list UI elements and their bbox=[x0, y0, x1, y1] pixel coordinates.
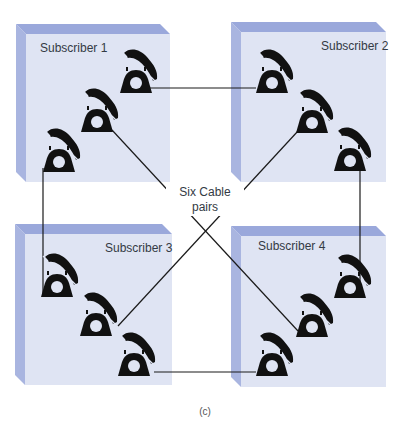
subscriber-3-label: Subscriber 3 bbox=[105, 241, 173, 255]
center-label-line2: pairs bbox=[192, 200, 218, 214]
subscriber-1-label: Subscriber 1 bbox=[40, 41, 108, 55]
full-mesh-telephone-diagram: Subscriber 1 Subscriber 2 Subscriber 3 S… bbox=[0, 0, 410, 435]
figure-caption: (c) bbox=[199, 406, 211, 417]
subscriber-4-label: Subscriber 4 bbox=[258, 239, 326, 253]
subscriber-1-box: Subscriber 1 bbox=[16, 24, 170, 182]
subscriber-2-label: Subscriber 2 bbox=[321, 39, 389, 53]
subscriber-4-box: Subscriber 4 bbox=[231, 226, 386, 387]
subscriber-2-box: Subscriber 2 bbox=[231, 22, 389, 182]
center-label-line1: Six Cable bbox=[179, 185, 231, 199]
